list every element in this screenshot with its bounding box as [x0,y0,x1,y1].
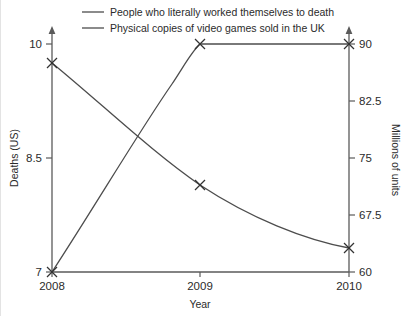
legend-entry-deaths: People who literally worked themselves t… [82,6,334,18]
right-tick-label-75: 75 [359,152,372,164]
right-axis-arrow-icon [346,26,353,34]
chart-legend: People who literally worked themselves t… [82,6,334,34]
dual-axis-line-chart: People who literally worked themselves t… [0,0,402,316]
series-deaths [47,58,354,253]
x-tick-label-2010: 2010 [336,280,362,292]
right-tick-label-82point5: 82.5 [359,95,381,107]
right-axis-title: Millions of units [390,124,402,196]
left-tick-label-10: 10 [29,38,42,50]
x-axis: 2008 2009 2010 Year [39,272,362,310]
left-axis-arrow-icon [49,26,56,34]
series-deaths-line [52,63,349,248]
left-axis-title: Deaths (US) [8,129,20,187]
legend-label-video-games: Physical copies of video games sold in t… [110,22,325,34]
series-deaths-marker-2009 [195,180,205,190]
chart-canvas: People who literally worked themselves t… [0,0,402,316]
right-tick-label-90: 90 [359,38,372,50]
right-tick-label-67point5: 67.5 [359,209,381,221]
left-tick-label-7: 7 [36,266,42,278]
right-tick-label-60: 60 [359,266,372,278]
legend-label-deaths: People who literally worked themselves t… [110,6,334,18]
series-video-games [47,39,354,277]
x-axis-title: Year [189,298,211,310]
right-axis: 90 82.5 75 67.5 60 Millions of units [346,26,402,278]
x-tick-label-2008: 2008 [39,280,65,292]
left-tick-label-8point5: 8.5 [26,152,42,164]
x-tick-label-2009: 2009 [187,280,213,292]
legend-entry-video-games: Physical copies of video games sold in t… [82,22,325,34]
series-video-games-line [52,44,349,272]
left-axis: 10 8.5 7 Deaths (US) [8,26,55,278]
